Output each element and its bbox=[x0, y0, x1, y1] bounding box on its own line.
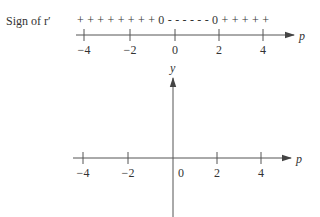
tick-label: 2 bbox=[216, 43, 222, 57]
sign-pattern: + + + + + + + + 0 - - - - - - 0 + + + + … bbox=[77, 13, 269, 27]
tick-label: −2 bbox=[122, 166, 135, 180]
tick-label: 4 bbox=[258, 166, 264, 180]
tick-label: −2 bbox=[124, 43, 137, 57]
sign-label: Sign of r′ bbox=[6, 14, 51, 28]
tick-label: 2 bbox=[214, 166, 220, 180]
tick-label: 4 bbox=[260, 43, 266, 57]
tick-label: −4 bbox=[77, 166, 90, 180]
p-axis-label-bottom: p bbox=[295, 152, 302, 166]
coordinate-plane: y −4 −2 0 2 4 p bbox=[73, 61, 302, 217]
diagram: Sign of r′ + + + + + + + + 0 - - - - - -… bbox=[0, 0, 320, 217]
y-axis-label: y bbox=[169, 61, 176, 75]
tick-label: −4 bbox=[78, 43, 91, 57]
p-axis-label-top: p bbox=[298, 29, 305, 43]
tick-label: 0 bbox=[178, 166, 184, 180]
tick-label: 0 bbox=[172, 43, 178, 57]
sign-line: Sign of r′ + + + + + + + + 0 - - - - - -… bbox=[6, 13, 305, 57]
